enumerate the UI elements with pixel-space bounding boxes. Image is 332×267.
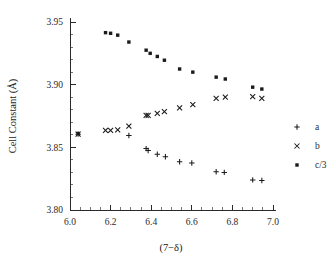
y-axis-tick-label: 3.95 (46, 17, 63, 27)
marker-square-legend (295, 163, 298, 166)
marker-square (224, 77, 227, 80)
marker-square (163, 59, 166, 62)
x-axis-tick-label: 6.6 (186, 217, 198, 227)
legend-label-b: b (315, 141, 320, 151)
legend-label-c-3: c/3 (315, 160, 327, 170)
cell-constant-scatter-plot: 3.803.853.903.95 6.06.26.46.66.87.0 abc/… (0, 0, 332, 267)
marker-square (127, 40, 130, 43)
marker-square (148, 52, 151, 55)
marker-square (251, 85, 254, 88)
x-axis-tick-label: 6.4 (145, 217, 157, 227)
x-axis-title: (7−δ) (159, 242, 183, 254)
scatter-chart-figure: 3.803.853.903.95 6.06.26.46.66.87.0 abc/… (0, 0, 332, 267)
marker-square (178, 67, 181, 70)
x-axis-tick-label: 7.0 (267, 217, 279, 227)
marker-square (214, 75, 217, 78)
marker-square (191, 70, 194, 73)
y-axis-tick-label: 3.85 (46, 143, 63, 153)
x-axis-tick-label: 6.0 (64, 217, 76, 227)
marker-square (144, 49, 147, 52)
marker-square (76, 132, 79, 135)
y-axis-tick-label: 3.90 (46, 80, 63, 90)
x-axis-tick-label: 6.8 (226, 217, 238, 227)
chart-background (0, 0, 332, 267)
marker-square (104, 31, 107, 34)
marker-square (109, 32, 112, 35)
marker-square (156, 55, 159, 58)
marker-square (260, 87, 263, 90)
y-axis-title: Cell Constant (Å) (7, 78, 19, 153)
x-axis-tick-label: 6.2 (105, 217, 117, 227)
y-axis-tick-label: 3.80 (46, 205, 63, 215)
marker-square (116, 33, 119, 36)
